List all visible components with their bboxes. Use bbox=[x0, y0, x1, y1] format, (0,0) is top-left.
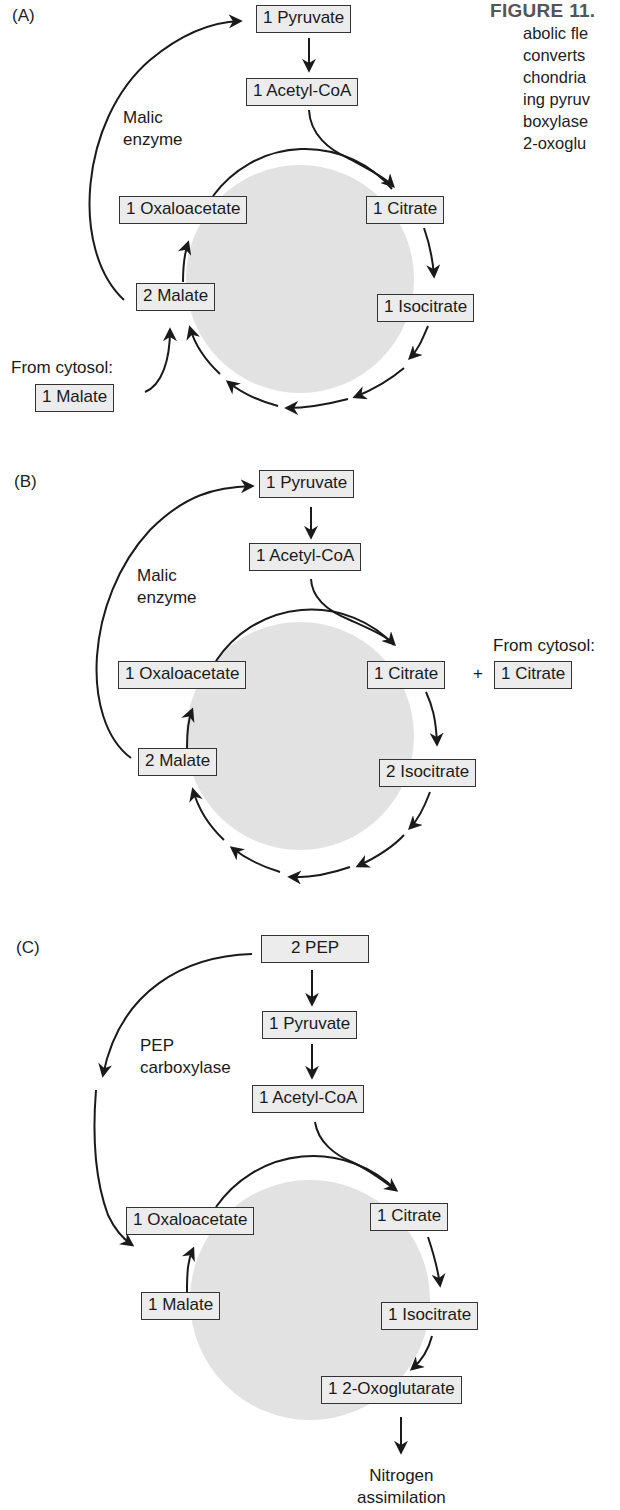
box-cytosol-citrate-b: 1 Citrate bbox=[494, 661, 572, 689]
from-cytosol-label-b: From cytosol: bbox=[493, 635, 595, 657]
enzyme-label-line: Malic bbox=[123, 107, 183, 129]
enzyme-label-b: Malic enzyme bbox=[137, 565, 197, 609]
panel-label-b: (B) bbox=[14, 472, 37, 492]
box-acetyl-coa-a: 1 Acetyl-CoA bbox=[246, 78, 358, 106]
enzyme-label-line: enzyme bbox=[137, 587, 197, 609]
box-pyruvate-b: 1 Pyruvate bbox=[259, 470, 354, 498]
box-acetyl-coa-b: 1 Acetyl-CoA bbox=[249, 543, 361, 571]
output-label-c: Nitrogen assimilation bbox=[357, 1465, 446, 1509]
box-malate-c: 1 Malate bbox=[141, 1292, 220, 1320]
caption-line: abolic fle bbox=[490, 22, 595, 44]
plus-sign-b: + bbox=[473, 663, 483, 685]
box-citrate-b: 1 Citrate bbox=[367, 661, 445, 689]
caption-line: ing pyruv bbox=[490, 88, 595, 110]
box-oxaloacetate-b: 1 Oxaloacetate bbox=[118, 661, 246, 689]
caption-line: boxylase bbox=[490, 110, 595, 132]
box-citrate-a: 1 Citrate bbox=[366, 196, 444, 224]
enzyme-label-line: Malic bbox=[137, 565, 197, 587]
caption-line: 2-oxoglu bbox=[490, 132, 595, 154]
arrow-citrate-isocitrate-a bbox=[424, 228, 434, 276]
diagram-canvas bbox=[0, 0, 620, 1510]
enzyme-label-line: enzyme bbox=[123, 129, 183, 151]
from-cytosol-label-a: From cytosol: bbox=[11, 357, 113, 379]
box-acetyl-coa-c: 1 Acetyl-CoA bbox=[252, 1085, 364, 1113]
output-label-line: assimilation bbox=[357, 1487, 446, 1509]
enzyme-label-line: carboxylase bbox=[140, 1057, 231, 1079]
box-isocitrate-b: 2 Isocitrate bbox=[379, 759, 476, 787]
box-isocitrate-c: 1 Isocitrate bbox=[381, 1302, 478, 1330]
box-pyruvate-c: 1 Pyruvate bbox=[262, 1011, 357, 1039]
box-pep-c: 2 PEP bbox=[261, 935, 369, 963]
caption-line: chondria bbox=[490, 66, 595, 88]
box-oxaloacetate-c: 1 Oxaloacetate bbox=[126, 1207, 254, 1235]
output-label-line: Nitrogen bbox=[357, 1465, 446, 1487]
enzyme-label-c: PEP carboxylase bbox=[140, 1035, 231, 1079]
caption-heading: FIGURE 11. bbox=[490, 0, 595, 22]
box-malate-b: 2 Malate bbox=[138, 748, 217, 776]
box-pyruvate-a: 1 Pyruvate bbox=[256, 5, 351, 33]
box-malate-a: 2 Malate bbox=[136, 283, 215, 311]
box-isocitrate-a: 1 Isocitrate bbox=[377, 294, 474, 322]
box-citrate-c: 1 Citrate bbox=[370, 1203, 448, 1231]
box-oxaloacetate-a: 1 Oxaloacetate bbox=[119, 196, 247, 224]
box-cytosol-malate-a: 1 Malate bbox=[35, 384, 114, 412]
arrow-cytosol-malate-a bbox=[145, 330, 170, 392]
box-oxoglutarate-c: 1 2-Oxoglutarate bbox=[321, 1376, 462, 1404]
caption-line: converts bbox=[490, 44, 595, 66]
enzyme-label-a: Malic enzyme bbox=[123, 107, 183, 151]
figure-caption: FIGURE 11. abolic fle converts chondria … bbox=[490, 0, 595, 154]
panel-label-a: (A) bbox=[12, 6, 35, 26]
enzyme-label-line: PEP bbox=[140, 1035, 231, 1057]
panel-label-c: (C) bbox=[16, 938, 40, 958]
